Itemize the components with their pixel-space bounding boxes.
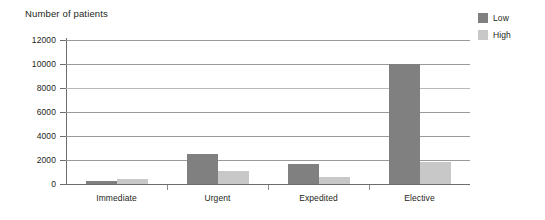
y-tick-label: 6000: [37, 107, 56, 117]
legend-label-high: High: [493, 30, 511, 40]
bar[interactable]: [389, 64, 420, 184]
y-tick-label: 12000: [32, 35, 56, 45]
chart-title: Number of patients: [25, 8, 108, 19]
legend-swatch-high-icon: [478, 30, 488, 40]
y-tick-mark: [60, 184, 66, 185]
y-tick-label: 0: [51, 179, 56, 189]
legend-label-low: Low: [493, 13, 509, 23]
plot-area: [66, 40, 470, 184]
category-separator-tick: [167, 185, 168, 190]
bar-chart: Number of patients 020004000600080001000…: [0, 0, 545, 220]
bar-group: [288, 40, 350, 184]
legend-item-low[interactable]: Low: [478, 10, 540, 25]
bar[interactable]: [420, 162, 451, 184]
bar[interactable]: [86, 181, 117, 184]
x-tick-label: Urgent: [167, 193, 268, 203]
x-tick-label: Immediate: [66, 193, 167, 203]
bar[interactable]: [288, 164, 319, 184]
bar[interactable]: [117, 179, 148, 184]
bar-group: [187, 40, 249, 184]
x-tick-label: Expedited: [268, 193, 369, 203]
chart-legend: Low High: [478, 10, 540, 44]
x-tick-label: Elective: [369, 193, 470, 203]
bar-group: [389, 40, 451, 184]
y-tick-label: 4000: [37, 131, 56, 141]
bar[interactable]: [187, 154, 218, 184]
y-tick-label: 2000: [37, 155, 56, 165]
legend-swatch-low-icon: [478, 13, 488, 23]
category-separator-tick: [268, 185, 269, 190]
y-tick-label: 10000: [32, 59, 56, 69]
bar[interactable]: [218, 171, 249, 184]
bar-group: [86, 40, 148, 184]
legend-item-high[interactable]: High: [478, 27, 540, 42]
y-tick-label: 8000: [37, 83, 56, 93]
category-separator-tick: [369, 185, 370, 190]
bar[interactable]: [319, 177, 350, 184]
